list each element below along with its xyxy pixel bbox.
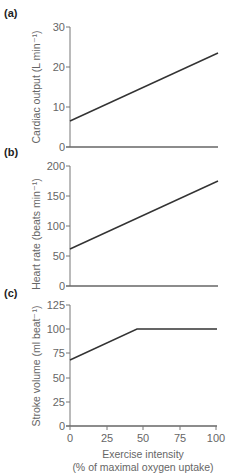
panel-c-y-title: Stroke volume (ml beat⁻¹) (30, 306, 42, 427)
heart-rate-line (70, 181, 218, 249)
panel-c-xtick-100: 100 (207, 432, 225, 444)
panel-b-tick-100: 100 (47, 220, 65, 232)
panel-c-tick-0: 0 (59, 420, 65, 432)
panel-c-tick-50: 50 (53, 372, 65, 384)
panel-a-tick-10: 10 (53, 101, 65, 113)
panel-b-label: (b) (4, 146, 18, 158)
stroke-volume-line (70, 329, 217, 360)
cardiac-output-line (70, 53, 218, 121)
panel-c-tick-75: 75 (53, 347, 65, 359)
panel-a-tick-30: 30 (53, 21, 65, 33)
panel-c-label: (c) (4, 287, 18, 299)
panel-b-tick-0: 0 (59, 280, 65, 292)
panel-a-cardiac-output: (a) 30 20 10 0 Cardiac output (L min⁻¹) (4, 7, 218, 153)
panel-b-heart-rate: (b) 200 150 100 50 0 Heart rate (beats m… (4, 146, 218, 292)
x-axis-title-line1: Exercise intensity (102, 448, 184, 460)
panel-a-y-title: Cardiac output (L min⁻¹) (30, 31, 42, 144)
panel-b-tick-150: 150 (47, 190, 65, 202)
figure: (a) 30 20 10 0 Cardiac output (L min⁻¹) … (0, 0, 235, 475)
panel-a-tick-0: 0 (59, 141, 65, 153)
panel-b-tick-50: 50 (53, 250, 65, 262)
panel-c-tick-25: 25 (53, 396, 65, 408)
panel-c-xtick-75: 75 (174, 432, 186, 444)
panel-b-y-title: Heart rate (beats min⁻¹) (30, 178, 42, 290)
panel-c-xtick-25: 25 (101, 432, 113, 444)
panel-b-tick-200: 200 (47, 160, 65, 172)
x-axis-title-line2: (% of maximal oxygen uptake) (72, 461, 213, 473)
panel-c-xtick-50: 50 (137, 432, 149, 444)
panel-a-tick-20: 20 (53, 61, 65, 73)
panel-a-label: (a) (4, 7, 18, 19)
panel-c-tick-100: 100 (47, 323, 65, 335)
panel-c-stroke-volume: (c) 125 100 75 50 25 0 0 25 50 75 100 St… (4, 287, 225, 473)
panel-c-xtick-0: 0 (67, 432, 73, 444)
panel-c-tick-125: 125 (47, 299, 65, 311)
